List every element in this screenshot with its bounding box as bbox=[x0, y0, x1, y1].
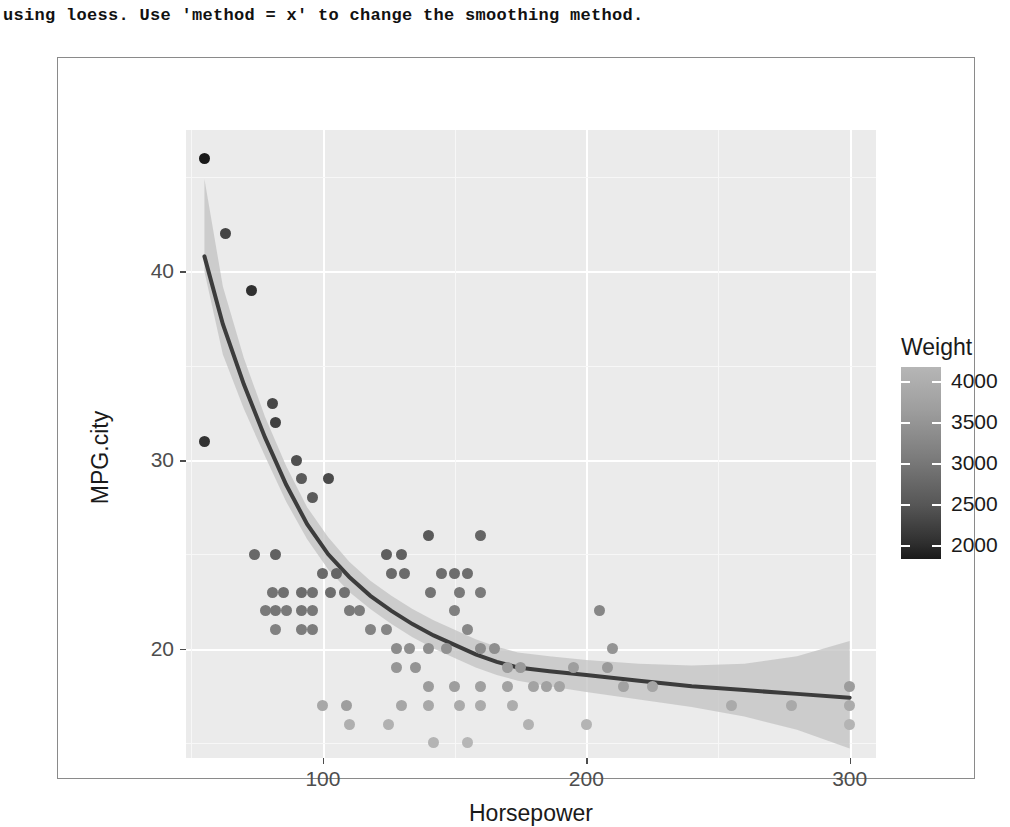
scatter-point bbox=[515, 662, 526, 673]
scatter-point bbox=[199, 153, 210, 164]
scatter-point bbox=[844, 719, 855, 730]
scatter-point bbox=[260, 605, 271, 616]
x-axis-tick-label: 200 bbox=[569, 767, 604, 791]
scatter-point bbox=[449, 568, 460, 579]
legend-tick-mark bbox=[932, 504, 941, 506]
y-axis-tick-label: 40 bbox=[58, 259, 174, 283]
scatter-point bbox=[523, 719, 534, 730]
y-axis-tick-label: 20 bbox=[58, 637, 174, 661]
legend-tick-mark bbox=[932, 422, 941, 424]
x-axis-title: Horsepower bbox=[186, 800, 876, 827]
legend-title: Weight bbox=[901, 334, 1010, 361]
scatter-point bbox=[844, 700, 855, 711]
scatter-point bbox=[423, 530, 434, 541]
scatter-point bbox=[331, 568, 342, 579]
scatter-point bbox=[410, 662, 421, 673]
scatter-point bbox=[602, 662, 613, 673]
plot-panel bbox=[186, 130, 876, 758]
scatter-point bbox=[475, 587, 486, 598]
legend-tick-mark bbox=[932, 381, 941, 383]
scatter-point bbox=[449, 681, 460, 692]
scatter-point bbox=[278, 587, 289, 598]
legend-tick-mark bbox=[901, 545, 910, 547]
scatter-point bbox=[568, 662, 579, 673]
scatter-point bbox=[344, 719, 355, 730]
legend-tick-mark bbox=[932, 545, 941, 547]
scatter-point bbox=[249, 549, 260, 560]
x-axis-tick-label: 100 bbox=[305, 767, 340, 791]
x-axis-tick bbox=[850, 758, 852, 764]
x-axis-tick bbox=[323, 758, 325, 764]
scatter-point bbox=[436, 568, 447, 579]
console-output-line: using loess. Use 'method = x' to change … bbox=[3, 2, 1003, 30]
scatter-point bbox=[325, 587, 336, 598]
scatter-point bbox=[399, 568, 410, 579]
scatter-point bbox=[454, 587, 465, 598]
scatter-point bbox=[386, 568, 397, 579]
plot-frame: Horsepower MPG.city Weight 4000350030002… bbox=[57, 57, 975, 779]
scatter-point bbox=[726, 700, 737, 711]
scatter-point bbox=[381, 624, 392, 635]
scatter-point bbox=[423, 643, 434, 654]
y-axis-tick bbox=[180, 460, 186, 462]
scatter-point bbox=[199, 436, 210, 447]
scatter-point bbox=[462, 568, 473, 579]
scatter-point bbox=[341, 700, 352, 711]
scatter-point bbox=[507, 700, 518, 711]
scatter-point bbox=[267, 587, 278, 598]
legend-tick-mark bbox=[932, 463, 941, 465]
scatter-point bbox=[339, 587, 350, 598]
scatter-point bbox=[423, 700, 434, 711]
scatter-point bbox=[502, 662, 513, 673]
scatter-point bbox=[844, 681, 855, 692]
scatter-point bbox=[786, 700, 797, 711]
smooth-layer bbox=[186, 130, 876, 758]
legend-tick-mark bbox=[901, 504, 910, 506]
legend: Weight 40003500300025002000 bbox=[894, 334, 1010, 567]
legend-tick-label: 3500 bbox=[951, 410, 998, 434]
y-axis-tick bbox=[180, 649, 186, 651]
scatter-point bbox=[383, 719, 394, 730]
scatter-point bbox=[425, 587, 436, 598]
legend-tick-label: 2500 bbox=[951, 492, 998, 516]
confidence-band bbox=[204, 179, 849, 749]
scatter-point bbox=[502, 681, 513, 692]
scatter-point bbox=[270, 417, 281, 428]
legend-tick-label: 4000 bbox=[951, 369, 998, 393]
legend-tick-mark bbox=[901, 422, 910, 424]
scatter-point bbox=[281, 605, 292, 616]
y-axis-tick-label: 30 bbox=[58, 448, 174, 472]
scatter-point bbox=[618, 681, 629, 692]
scatter-point bbox=[381, 549, 392, 560]
scatter-point bbox=[291, 455, 302, 466]
legend-tick-label: 3000 bbox=[951, 451, 998, 475]
legend-tick-mark bbox=[901, 463, 910, 465]
legend-tick-label: 2000 bbox=[951, 533, 998, 557]
scatter-point bbox=[581, 719, 592, 730]
scatter-point bbox=[307, 587, 318, 598]
x-axis-tick bbox=[586, 758, 588, 764]
scatter-point bbox=[647, 681, 658, 692]
x-axis-tick-label: 300 bbox=[832, 767, 867, 791]
legend-tick-mark bbox=[901, 381, 910, 383]
scatter-point bbox=[489, 643, 500, 654]
y-axis-tick bbox=[180, 271, 186, 273]
scatter-point bbox=[296, 587, 307, 598]
scatter-point bbox=[528, 681, 539, 692]
scatter-point bbox=[270, 549, 281, 560]
legend-body: 40003500300025002000 bbox=[894, 367, 1010, 567]
scatter-point bbox=[423, 681, 434, 692]
